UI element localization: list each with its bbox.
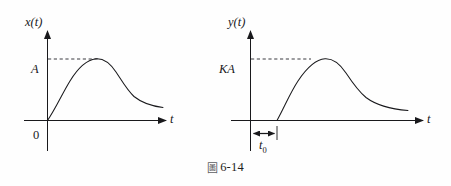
delay-label-subscript: 0 <box>262 145 266 155</box>
delay-label: t0 <box>259 139 267 154</box>
right-response-curve <box>277 59 408 121</box>
figure-word-glyph: 圖 <box>207 162 218 175</box>
left-yaxis-label: x(t) <box>25 16 42 29</box>
left-origin-label: 0 <box>33 129 39 142</box>
figure-container: x(t) A t 0 y(t) KA t t0 圖6-14 <box>0 0 451 186</box>
left-plot-axes <box>24 31 166 151</box>
left-amplitude-label: A <box>31 63 39 76</box>
left-xaxis-label: t <box>170 113 173 126</box>
figure-number: 6-14 <box>220 160 244 174</box>
right-amplitude-label: KA <box>219 63 235 76</box>
figure-canvas <box>0 0 451 186</box>
right-xaxis-label: t <box>427 113 430 126</box>
figure-caption: 圖6-14 <box>0 160 451 175</box>
right-yaxis-label: y(t) <box>228 16 245 29</box>
left-response-curve <box>48 59 164 121</box>
